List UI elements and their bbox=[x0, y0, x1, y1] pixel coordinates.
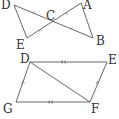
tick-mark-AC bbox=[66, 13, 68, 15]
top-figure: D A C E B bbox=[1, 0, 105, 52]
label-B: B bbox=[96, 34, 105, 48]
segment-EF bbox=[90, 62, 107, 102]
bottom-figure: D E G F bbox=[3, 52, 117, 116]
label-E-bottom: E bbox=[108, 53, 117, 67]
label-D-bottom: D bbox=[20, 52, 30, 66]
label-E-top: E bbox=[16, 38, 25, 52]
geometry-diagram: D A C E B D E G F bbox=[0, 0, 119, 119]
label-A: A bbox=[82, 0, 92, 12]
tick-mark-CB bbox=[71, 28, 73, 30]
label-C: C bbox=[46, 9, 55, 23]
label-F: F bbox=[91, 102, 99, 116]
segment-DF bbox=[30, 62, 90, 102]
label-G: G bbox=[3, 102, 13, 116]
label-D-top: D bbox=[1, 0, 11, 12]
